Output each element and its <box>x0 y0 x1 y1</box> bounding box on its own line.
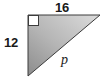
figure-container: 16 12 p <box>0 0 107 82</box>
hypotenuse-variable-label: p <box>61 53 68 67</box>
top-leg-length-label: 16 <box>55 1 69 14</box>
left-leg-length-label: 12 <box>4 36 18 49</box>
right-angle-square-icon <box>29 16 39 26</box>
